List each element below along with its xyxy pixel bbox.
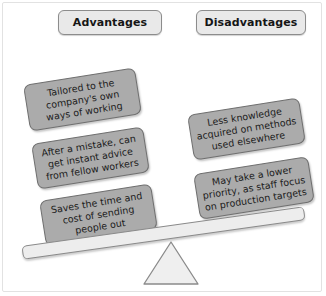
fulcrum-triangle-icon xyxy=(142,240,200,286)
header-advantages: Advantages xyxy=(58,10,162,35)
header-disadvantages-label: Disadvantages xyxy=(204,16,297,29)
header-advantages-label: Advantages xyxy=(73,16,147,29)
header-disadvantages: Disadvantages xyxy=(196,10,306,35)
balance-scale-diagram: Advantages Disadvantages Tailored to the… xyxy=(0,0,326,296)
